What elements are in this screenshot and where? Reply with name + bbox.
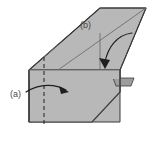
- label-a: (a): [10, 89, 21, 99]
- side-tab: [113, 78, 134, 86]
- front-panel-overlay: [29, 70, 120, 79]
- label-b: (b): [80, 20, 91, 30]
- upper-panel-face: [29, 8, 146, 70]
- diagram-canvas: (a) (b): [0, 0, 154, 144]
- folding-diagram-figure: (a) (b): [0, 0, 154, 144]
